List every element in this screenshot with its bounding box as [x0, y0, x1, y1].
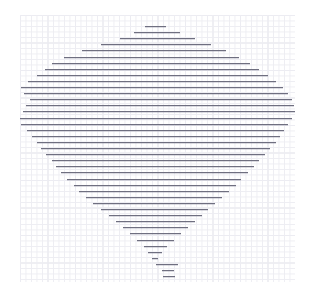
bar-row [26, 105, 294, 106]
bar-row [156, 264, 178, 265]
bar-row [137, 240, 174, 241]
bar-row [24, 93, 288, 94]
bar-row [144, 246, 167, 247]
bar-row [79, 191, 229, 192]
bar-row [120, 38, 194, 39]
bar-row [67, 179, 242, 180]
bar-row [46, 154, 265, 155]
bar-row [37, 142, 276, 143]
bar-row [37, 75, 268, 76]
bar-row [145, 26, 166, 27]
bar-row [21, 124, 288, 125]
bar-row [27, 130, 284, 131]
bar-row [28, 81, 276, 82]
bar-row [116, 221, 194, 222]
bar-row [162, 270, 174, 271]
bar-row [82, 50, 226, 51]
bar-row [130, 233, 181, 234]
bar-row [56, 166, 254, 167]
bar-row [123, 227, 188, 228]
bar-row [30, 99, 293, 100]
bar-row [109, 215, 201, 216]
bar-row [32, 136, 280, 137]
bar-row [93, 203, 215, 204]
bar-row [86, 197, 222, 198]
bar-row [45, 69, 260, 70]
plot-area [0, 0, 313, 299]
bar-row [152, 258, 158, 259]
bar-row [74, 185, 236, 186]
bar-row [41, 148, 271, 149]
bar-row [61, 172, 248, 173]
bar-row [101, 44, 211, 45]
bar-row [23, 111, 295, 112]
bar-row [52, 160, 260, 161]
bar-row [21, 87, 282, 88]
bar-row [52, 63, 250, 64]
bar-row [20, 118, 292, 119]
bar-row [101, 209, 208, 210]
bar-row [148, 252, 162, 253]
bar-row [163, 276, 175, 277]
bar-row [64, 57, 239, 58]
bar-row [134, 32, 179, 33]
chart-root [0, 0, 313, 299]
